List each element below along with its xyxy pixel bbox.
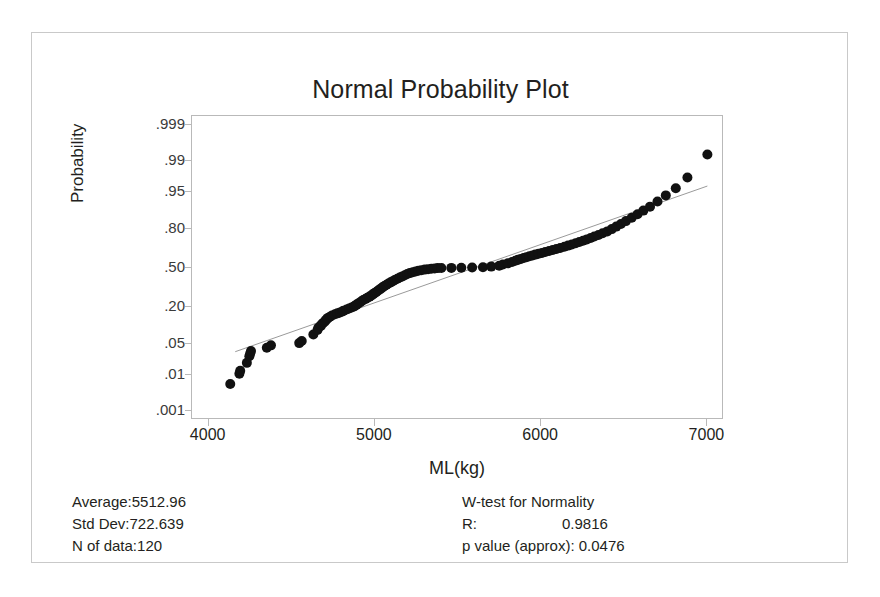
y-axis-tick-label: .20 — [164, 298, 185, 313]
x-axis-tick-label: 4000 — [190, 427, 226, 443]
normality-test-block: W-test for Normality R:0.9816 p value (a… — [462, 491, 625, 557]
data-point — [436, 263, 446, 273]
data-point — [297, 336, 307, 346]
wtest-r-value: 0.9816 — [562, 513, 608, 535]
wtest-p-value: 0.0476 — [579, 535, 625, 557]
data-point — [225, 379, 235, 389]
data-point — [235, 366, 245, 376]
summary-stat-row: Std Dev: 722.639 — [72, 513, 186, 535]
summary-statistics-block: Average: 5512.96Std Dev: 722.639N of dat… — [72, 491, 186, 557]
y-axis-tick-label: .95 — [164, 183, 185, 198]
x-axis-tick-mark — [706, 419, 707, 426]
y-axis-tick-label: .50 — [164, 259, 185, 274]
x-axis-tick-label: 6000 — [522, 427, 558, 443]
y-axis-tick-label: .999 — [156, 116, 185, 131]
summary-stat-label: Average: — [72, 491, 132, 513]
data-point — [682, 172, 692, 182]
summary-stat-value: 120 — [137, 535, 162, 557]
summary-stat-value: 722.639 — [130, 513, 184, 535]
wtest-r-row: R:0.9816 — [462, 513, 625, 535]
y-axis-tick-label: .01 — [164, 366, 185, 381]
y-axis-tick-label: .80 — [164, 220, 185, 235]
data-point — [446, 263, 456, 273]
x-axis-tick-label: 5000 — [356, 427, 392, 443]
data-points — [225, 149, 712, 389]
summary-stat-label: N of data: — [72, 535, 137, 557]
figure-page: Normal Probability Plot Probability .999… — [0, 0, 880, 597]
x-axis-tick-mark — [374, 419, 375, 426]
summary-stat-row: Average: 5512.96 — [72, 491, 186, 513]
summary-stat-row: N of data: 120 — [72, 535, 186, 557]
data-point — [661, 190, 671, 200]
plot-area — [191, 115, 723, 419]
data-point — [671, 183, 681, 193]
x-axis-tick-mark — [540, 419, 541, 426]
summary-stat-label: Std Dev: — [72, 513, 130, 535]
page-title: Normal Probability Plot — [32, 75, 849, 104]
wtest-p-label: p value (approx): — [462, 535, 575, 557]
data-point — [246, 346, 256, 356]
y-axis-tick-label: .99 — [164, 152, 185, 167]
data-point — [266, 340, 276, 350]
data-point — [702, 149, 712, 159]
figure-frame: Normal Probability Plot Probability .999… — [31, 32, 848, 563]
y-axis-tick-label: .05 — [164, 335, 185, 350]
data-point — [467, 263, 477, 273]
wtest-p-row: p value (approx): 0.0476 — [462, 535, 625, 557]
summary-stat-value: 5512.96 — [132, 491, 186, 513]
scatter-plot-svg — [192, 116, 724, 420]
y-axis-tick-label: .001 — [156, 402, 185, 417]
y-axis-title: Probability — [68, 124, 88, 203]
wtest-heading: W-test for Normality — [462, 491, 625, 513]
data-point — [653, 197, 663, 207]
x-axis-tick-mark — [208, 419, 209, 426]
data-point — [456, 263, 466, 273]
x-axis-tick-label: 7000 — [689, 427, 725, 443]
x-axis-title: ML(kg) — [191, 458, 723, 479]
x-axis-tick-labels: 4000500060007000 — [191, 427, 723, 451]
y-axis-tick-labels: .999.99.95.80.50.20.05.01.001 — [111, 115, 185, 419]
x-axis-tick-marks — [191, 419, 723, 426]
wtest-r-label: R: — [462, 513, 562, 535]
